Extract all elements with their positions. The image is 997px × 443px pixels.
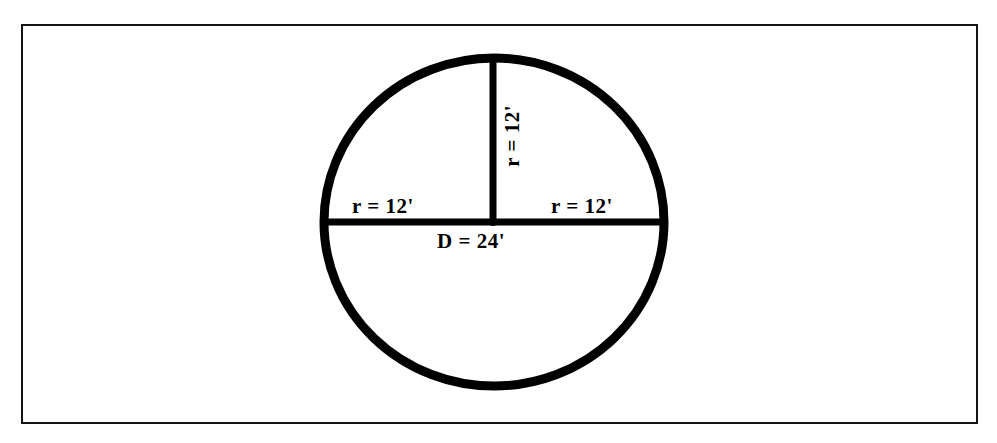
- label-radius-top-text: r = 12': [500, 105, 525, 167]
- label-radius-right: r = 12': [551, 194, 613, 219]
- center-point: [489, 218, 497, 226]
- label-radius-top: r = 12': [500, 43, 525, 105]
- figure-root: r = 12' r = 12' D = 24' r = 12': [0, 0, 997, 443]
- label-diameter: D = 24': [437, 229, 505, 254]
- label-radius-left: r = 12': [352, 194, 414, 219]
- circle-diagram: r = 12' r = 12' D = 24' r = 12': [0, 0, 997, 443]
- circle-svg: [0, 0, 997, 443]
